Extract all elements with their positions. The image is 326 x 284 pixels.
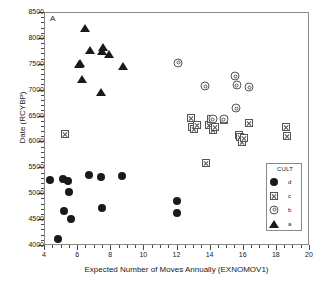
y-tick-minor: [41, 204, 44, 205]
x-tick-major: [44, 245, 45, 250]
y-tick-minor: [41, 178, 44, 179]
x-tick-minor: [127, 245, 128, 248]
data-point-d: [60, 207, 68, 215]
x-tick-label: 20: [297, 251, 321, 258]
x-tick-major: [243, 245, 244, 250]
data-point-d: [64, 177, 72, 185]
data-point-c: [240, 134, 248, 142]
y-tick-minor: [41, 126, 44, 127]
data-point-d: [54, 235, 62, 243]
legend-item-d[interactable]: d: [267, 175, 303, 188]
y-tick-minor: [41, 147, 44, 148]
data-point-c: [283, 132, 291, 140]
x-tick-minor: [61, 245, 62, 248]
legend-label-c: c: [288, 193, 291, 199]
y-tick-minor: [41, 131, 44, 132]
data-point-b: [219, 115, 228, 124]
data-point-d: [67, 215, 75, 223]
legend-marker-d: [270, 178, 278, 186]
x-tick-minor: [185, 245, 186, 248]
y-tick-minor: [41, 79, 44, 80]
y-tick-minor: [41, 198, 44, 199]
y-tick-minor: [41, 224, 44, 225]
y-tick-minor: [41, 48, 44, 49]
y-tick-minor: [41, 229, 44, 230]
data-point-c: [282, 123, 290, 131]
y-tick-minor: [41, 157, 44, 158]
y-tick-minor: [41, 69, 44, 70]
y-tick-minor: [41, 43, 44, 44]
x-tick-minor: [135, 245, 136, 248]
data-point-a: [75, 59, 85, 67]
panel-label: A: [50, 14, 56, 23]
y-tick-minor: [41, 173, 44, 174]
x-tick-minor: [268, 245, 269, 248]
legend-label-d: d: [288, 179, 291, 185]
x-tick-major: [143, 245, 144, 250]
x-tick-label: 6: [65, 251, 89, 258]
data-point-d: [118, 172, 126, 180]
data-point-a: [85, 46, 95, 54]
y-tick-minor: [41, 121, 44, 122]
data-point-a: [77, 75, 87, 83]
x-tick-label: 8: [98, 251, 122, 258]
y-tick-minor: [41, 105, 44, 106]
x-tick-major: [276, 245, 277, 250]
x-tick-major: [177, 245, 178, 250]
x-tick-minor: [292, 245, 293, 248]
x-axis-title: Expected Number of Moves Annually (EXNOM…: [44, 265, 309, 274]
x-tick-minor: [160, 245, 161, 248]
data-point-a: [104, 50, 114, 58]
data-point-a: [118, 62, 128, 70]
x-tick-major: [77, 245, 78, 250]
x-tick-major: [309, 245, 310, 250]
x-tick-minor: [119, 245, 120, 248]
x-tick-label: 18: [264, 251, 288, 258]
legend-marker-c: [270, 192, 278, 200]
data-point-d: [98, 204, 106, 212]
data-point-b: [231, 72, 240, 81]
y-tick-minor: [41, 183, 44, 184]
legend-item-c[interactable]: c: [267, 189, 303, 202]
legend-box: CULT dcba: [266, 163, 302, 231]
legend-title: CULT: [267, 166, 303, 172]
scatter-plot-figure: A 40004500500055006000650070007500800085…: [0, 0, 326, 284]
data-point-d: [97, 173, 105, 181]
x-tick-minor: [193, 245, 194, 248]
x-tick-minor: [226, 245, 227, 248]
data-point-b: [174, 58, 183, 67]
y-tick-label: 8000: [4, 34, 44, 41]
x-tick-minor: [94, 245, 95, 248]
y-tick-minor: [41, 209, 44, 210]
y-tick-minor: [41, 53, 44, 54]
data-point-b: [232, 81, 241, 90]
x-tick-label: 4: [32, 251, 56, 258]
legend-marker-b: [270, 205, 279, 214]
y-tick-minor: [41, 74, 44, 75]
data-point-b: [201, 82, 210, 91]
x-tick-minor: [152, 245, 153, 248]
x-tick-minor: [284, 245, 285, 248]
y-tick-label: 4500: [4, 215, 44, 222]
x-tick-minor: [85, 245, 86, 248]
y-tick-minor: [41, 22, 44, 23]
data-point-d: [173, 197, 181, 205]
x-tick-label: 12: [165, 251, 189, 258]
legend-item-a[interactable]: a: [267, 217, 303, 230]
x-tick-minor: [69, 245, 70, 248]
data-point-d: [173, 209, 181, 217]
data-point-c: [245, 119, 253, 127]
y-tick-label: 5000: [4, 189, 44, 196]
y-tick-minor: [41, 235, 44, 236]
y-tick-label: 4000: [4, 241, 44, 248]
y-axis-title: Date (RCYBP): [18, 48, 27, 188]
x-tick-major: [110, 245, 111, 250]
y-tick-label: 8500: [4, 8, 44, 15]
data-point-b: [208, 115, 217, 124]
x-tick-label: 16: [231, 251, 255, 258]
legend-marker-a: [269, 220, 279, 228]
x-tick-minor: [102, 245, 103, 248]
x-tick-minor: [168, 245, 169, 248]
y-tick-minor: [41, 100, 44, 101]
legend-item-b[interactable]: b: [267, 203, 303, 216]
